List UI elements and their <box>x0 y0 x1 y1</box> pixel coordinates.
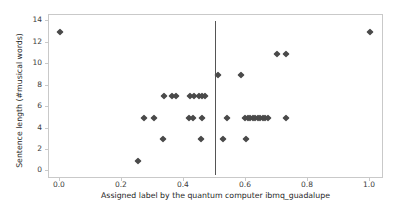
y-tick-mark <box>45 149 48 150</box>
decision-threshold-line <box>215 21 216 175</box>
y-tick-mark <box>45 170 48 171</box>
x-tick-label: 0.0 <box>53 181 65 189</box>
x-tick-label: 0.2 <box>115 181 127 189</box>
y-tick-mark <box>45 85 48 86</box>
y-tick-mark <box>45 128 48 129</box>
x-tick-label: 1.0 <box>363 181 375 189</box>
x-axis-label: Assigned label by the quantum computer i… <box>48 191 383 200</box>
y-tick-mark <box>45 20 48 21</box>
x-tick-label: 0.6 <box>239 181 251 189</box>
y-tick-mark <box>45 106 48 107</box>
y-tick-mark <box>45 42 48 43</box>
y-tick-mark <box>45 63 48 64</box>
scatter-plot-figure: 0.00.20.40.60.81.002468101214 Assigned l… <box>0 0 407 217</box>
x-tick-label: 0.8 <box>301 181 313 189</box>
y-axis-label: Sentence length (#musical words) <box>15 19 24 183</box>
annotation-layer <box>49 15 382 177</box>
x-tick-label: 0.4 <box>177 181 189 189</box>
plot-area <box>48 14 383 178</box>
